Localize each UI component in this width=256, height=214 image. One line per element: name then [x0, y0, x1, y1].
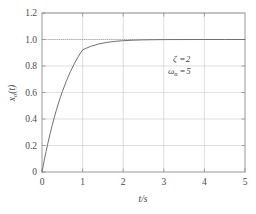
y-tick-label: 1.0 — [25, 35, 37, 45]
x-axis-title: t/s — [139, 194, 148, 204]
annotation-zeta: ζ=2 — [173, 54, 191, 64]
svg-text:ωn=5: ωn=5 — [168, 66, 191, 77]
y-tick-label: 1.2 — [25, 8, 37, 18]
x-tick-label: 1 — [80, 177, 85, 187]
y-tick-label: 0.2 — [25, 141, 37, 151]
x-tick-label: 5 — [243, 177, 248, 187]
y-axis-title: xo(t) — [7, 85, 18, 102]
annotation-omega-value: 5 — [186, 66, 191, 76]
x-tick-label: 3 — [161, 177, 166, 187]
annotation-omega-n: ωn=5 — [168, 66, 191, 77]
annotation-zeta-value: 2 — [186, 54, 191, 64]
annotation-zeta-relation: = — [179, 54, 185, 64]
step-response-chart: 0 0.2 0.4 0.6 0.8 1.0 1.2 0 1 2 3 4 5 xo… — [0, 0, 256, 214]
y-tick-label: 0.8 — [25, 61, 37, 71]
chart-figure: 0 0.2 0.4 0.6 0.8 1.0 1.2 0 1 2 3 4 5 xo… — [0, 0, 256, 214]
y-tick-label: 0.6 — [25, 88, 37, 98]
x-tick-label: 4 — [202, 177, 207, 187]
x-tick-label: 2 — [121, 177, 126, 187]
svg-text:xo(t): xo(t) — [7, 85, 18, 102]
y-axis-title-tail: (t) — [7, 85, 18, 94]
y-tick-label: 0.4 — [25, 114, 37, 124]
svg-text:ζ=2: ζ=2 — [173, 54, 191, 64]
x-tick-label: 0 — [40, 177, 45, 187]
annotation-omega-relation: = — [180, 66, 186, 76]
chart-background — [0, 0, 256, 214]
y-tick-label: 0 — [32, 167, 37, 177]
